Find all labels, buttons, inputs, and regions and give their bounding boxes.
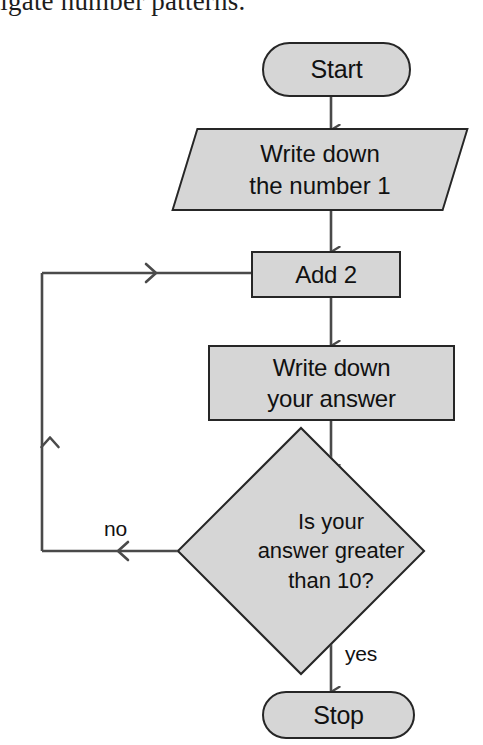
edge-label-no: no (104, 517, 127, 541)
node-start[interactable]: Start (262, 42, 411, 97)
flowchart-page: vestigate number patterns. (0, 0, 483, 745)
edge-label-yes: yes (345, 642, 377, 666)
node-stop[interactable]: Stop (262, 691, 415, 739)
node-write-your-answer-label: Write down your answer (267, 352, 396, 414)
node-write-number-1-label: Write down the number 1 (249, 138, 390, 200)
node-stop-label: Stop (313, 699, 364, 732)
node-decision-label: Is your answer greater than 10? (258, 507, 405, 595)
node-decision-greater-than-10[interactable]: Is your answer greater than 10? (213, 463, 449, 639)
node-write-number-1[interactable]: Write down the number 1 (184, 128, 456, 211)
arrowhead-no-up (42, 438, 59, 448)
node-add-2[interactable]: Add 2 (251, 251, 401, 298)
node-start-label: Start (311, 53, 363, 86)
node-write-your-answer[interactable]: Write down your answer (208, 345, 455, 421)
node-add-2-label: Add 2 (295, 259, 357, 290)
